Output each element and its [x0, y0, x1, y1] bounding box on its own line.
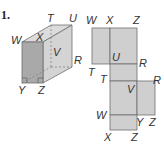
- net-label-top-x: X: [105, 14, 114, 26]
- net-label-top-z: Z: [132, 14, 141, 26]
- prism-label-w: W: [11, 34, 23, 46]
- net-face-bottom: [110, 115, 137, 130]
- net-face-left-top: [92, 28, 110, 64]
- prism-label-x: X: [35, 31, 44, 43]
- net-label-r-right: R: [153, 74, 161, 86]
- net-face-strip: [110, 64, 137, 81]
- net-label-top-w: W: [86, 14, 98, 26]
- prism-label-y: Y: [18, 84, 26, 96]
- net-label-y: Y: [136, 116, 144, 128]
- net-label-r-upper: R: [139, 57, 147, 69]
- problem-number: 1.: [1, 8, 10, 22]
- net-face-right-flap: [137, 81, 155, 115]
- net-label-w-lower: W: [96, 109, 108, 121]
- prism-label-t: T: [47, 12, 55, 24]
- net-label-bottom-x: X: [103, 131, 112, 143]
- net-label-t-inner: T: [100, 73, 108, 85]
- rectangular-prism: T U W X V R Y Z: [11, 12, 82, 96]
- prism-label-z: Z: [37, 84, 46, 96]
- prism-net: W X Z U R T T V R W Y Z X Z: [86, 14, 161, 143]
- net-label-bottom-z: Z: [130, 131, 139, 143]
- net-label-u: U: [112, 51, 120, 63]
- net-label-t-left: T: [88, 66, 96, 78]
- prism-label-r: R: [74, 54, 82, 66]
- net-label-z-right: Z: [148, 116, 157, 128]
- figure-canvas: 1. T U W X V R Y Z W X Z U R T T V: [0, 0, 164, 151]
- prism-label-u: U: [69, 12, 77, 24]
